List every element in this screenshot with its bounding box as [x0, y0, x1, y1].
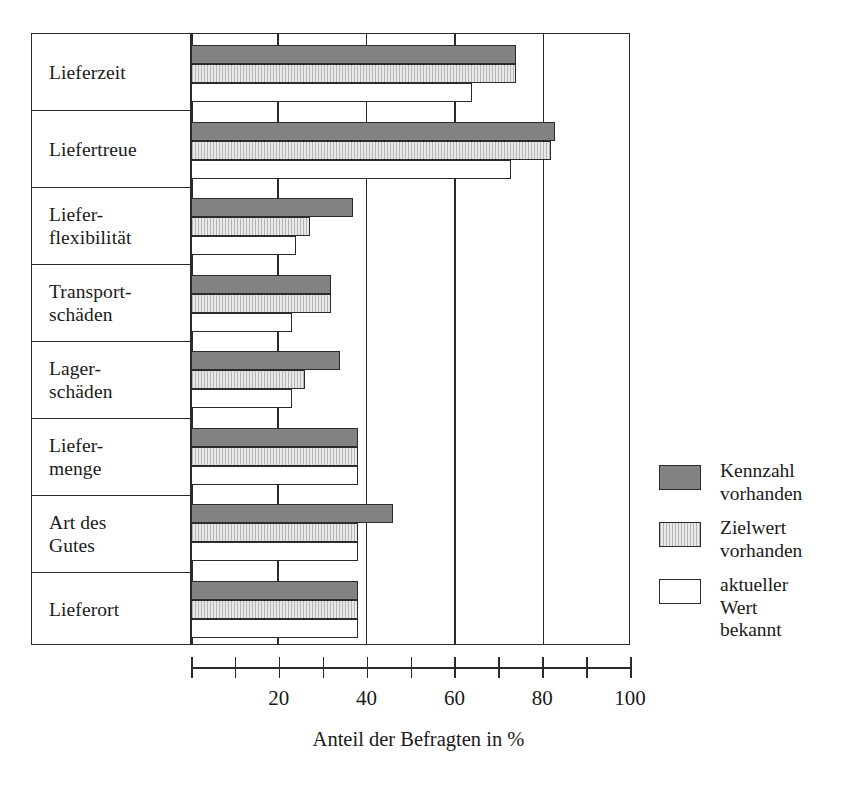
bar [191, 217, 310, 236]
x-axis-title: Anteil der Befragten in % [0, 728, 861, 751]
legend-swatch-icon [659, 579, 701, 604]
bar [191, 351, 340, 370]
bar [191, 600, 358, 619]
category-cell: Transport- schäden [32, 265, 190, 342]
x-axis-tick-label: 80 [507, 686, 577, 711]
bar [191, 275, 331, 294]
x-axis-title-text: Anteil der Befragten in % [313, 728, 525, 751]
bar [191, 141, 551, 160]
bar [191, 45, 516, 64]
x-axis-tick [279, 657, 281, 678]
legend-swatch-icon [659, 522, 701, 547]
category-cell: Liefer- menge [32, 419, 190, 496]
x-axis-tick [367, 657, 369, 678]
category-cell: Lieferort [32, 573, 190, 646]
bar-group [191, 569, 630, 646]
x-axis-tick [586, 657, 588, 678]
x-axis-tick [191, 657, 193, 678]
category-cell: Liefertreue [32, 111, 190, 188]
bar [191, 581, 358, 600]
category-label: Transport- schäden [49, 280, 132, 326]
x-axis-tick-label: 100 [595, 686, 665, 711]
bar [191, 542, 358, 561]
bar [191, 122, 555, 141]
legend-swatch-icon [659, 465, 701, 490]
x-axis-tick [498, 657, 500, 678]
legend-label: Kennzahl vorhanden [720, 460, 802, 505]
x-axis-tick-label: 20 [244, 686, 314, 711]
bar [191, 160, 511, 179]
x-axis-tick [235, 657, 237, 678]
category-cell: Lieferzeit [32, 34, 190, 111]
category-label: Lieferort [49, 598, 119, 621]
bar [191, 83, 472, 102]
category-cell: Art des Gutes [32, 496, 190, 573]
legend-label: Zielwert vorhanden [720, 517, 802, 562]
bar-group [191, 110, 630, 187]
category-axis-column: Lieferzeit Liefertreue Liefer- flexibili… [31, 33, 191, 645]
legend-item-aktueller-wert: aktueller Wert bekannt [659, 577, 788, 642]
legend-item-zielwert: Zielwert vorhanden [659, 520, 802, 562]
bar [191, 504, 393, 523]
bar [191, 198, 353, 217]
bar-group [191, 263, 630, 340]
category-label: Art des Gutes [49, 511, 107, 557]
category-label: Lager- schäden [49, 357, 113, 403]
bar-group [191, 33, 630, 110]
category-label: Liefer- menge [49, 434, 103, 480]
x-axis-tick-label: 40 [332, 686, 402, 711]
x-axis-tick-label: 60 [419, 686, 489, 711]
x-axis-tick [454, 657, 456, 678]
category-cell: Lager- schäden [32, 342, 190, 419]
legend-item-kennzahl: Kennzahl vorhanden [659, 463, 802, 505]
bar [191, 447, 358, 466]
x-axis-tick [630, 657, 632, 678]
chart-container: Lieferzeit Liefertreue Liefer- flexibili… [0, 0, 861, 794]
category-cell: Liefer- flexibilität [32, 188, 190, 265]
bar [191, 428, 358, 447]
bar [191, 236, 296, 255]
category-label: Lieferzeit [49, 61, 126, 84]
bar [191, 294, 331, 313]
bar-group [191, 416, 630, 493]
bar [191, 389, 292, 408]
bar [191, 466, 358, 485]
bar [191, 313, 292, 332]
legend-label: aktueller Wert bekannt [720, 574, 788, 642]
category-label: Liefer- flexibilität [49, 203, 131, 249]
bar [191, 370, 305, 389]
x-axis-tick [542, 657, 544, 678]
bar [191, 64, 516, 83]
bar [191, 619, 358, 638]
x-axis-tick [411, 657, 413, 678]
x-axis-tick [323, 657, 325, 678]
bar-group [191, 492, 630, 569]
bar-group [191, 339, 630, 416]
bar [191, 523, 358, 542]
category-label: Liefertreue [49, 138, 137, 161]
bar-group [191, 186, 630, 263]
